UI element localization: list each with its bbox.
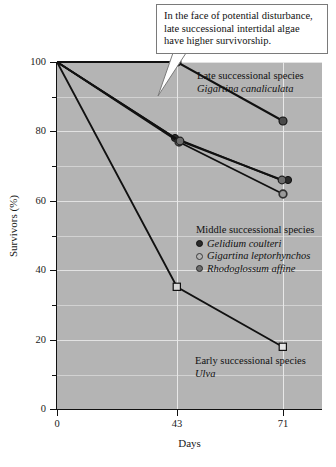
y-tick-label-100: 100	[6, 57, 46, 67]
legend-item-rhodoglossum-affine: Rhodoglossum affine	[196, 263, 314, 276]
callout-tail	[150, 50, 190, 96]
y-tick-60	[50, 201, 56, 202]
callout-line-3: have higher survivorship.	[164, 35, 321, 48]
legend-item-gigartina-leptorhynchos: Gigartina leptorhynchos	[196, 250, 314, 263]
callout-line-1: In the face of potential disturbance,	[164, 10, 321, 23]
y-tick-0	[50, 409, 56, 410]
legend-item-gelidium-coulteri: Gelidium coulteri	[196, 238, 314, 251]
y-tick-20	[50, 340, 56, 341]
y-tick-label-80: 80	[6, 126, 46, 136]
y-tick-label-20: 20	[6, 335, 46, 345]
x-tick-label-0: 0	[37, 418, 77, 429]
callout-box: In the face of potential disturbance, la…	[156, 4, 328, 54]
callout-line-2: late successional intertidal algae	[164, 23, 321, 36]
y-tick-40	[50, 270, 56, 271]
y-axis-line	[56, 62, 57, 410]
y-tick-70	[52, 166, 56, 167]
x-tick-label-71: 71	[263, 418, 303, 429]
legend-label-gigartina-leptorhynchos: Gigartina leptorhynchos	[207, 250, 310, 263]
y-axis-title: Survivors (%)	[7, 166, 19, 286]
x-tick-label-43: 43	[157, 418, 197, 429]
y-tick-80	[50, 131, 56, 132]
gridline-x-43	[177, 62, 178, 409]
early-successional-species: Ulva	[195, 368, 306, 381]
early-successional-annotation: Early successional species Ulva	[195, 355, 306, 380]
figure-container: 100 80 60 40 20 0 0 43 71 Days Survivors…	[0, 0, 336, 467]
late-successional-species: Gigartina canaliculata	[197, 83, 304, 96]
x-tick-71	[283, 410, 284, 416]
middle-successional-legend: Middle successional species Gelidium cou…	[196, 224, 314, 275]
open-ring-circle-icon	[196, 253, 203, 260]
legend-label-gelidium-coulteri: Gelidium coulteri	[207, 238, 281, 251]
x-tick-0	[57, 410, 58, 416]
solid-gray-circle-icon	[196, 265, 203, 272]
early-successional-heading: Early successional species	[195, 355, 306, 368]
y-tick-100	[50, 62, 56, 63]
x-tick-43	[177, 410, 178, 416]
solid-dark-circle-icon	[196, 240, 203, 247]
y-tick-90	[52, 97, 56, 98]
legend-label-rhodoglossum-affine: Rhodoglossum affine	[207, 263, 295, 276]
y-tick-label-0: 0	[6, 404, 46, 414]
y-tick-50	[52, 236, 56, 237]
legend-heading: Middle successional species	[196, 224, 314, 237]
y-tick-30	[52, 305, 56, 306]
late-successional-heading: Late successional species	[197, 70, 304, 83]
y-tick-10	[52, 375, 56, 376]
late-successional-annotation: Late successional species Gigartina cana…	[197, 70, 304, 95]
x-axis-title: Days	[57, 437, 322, 449]
